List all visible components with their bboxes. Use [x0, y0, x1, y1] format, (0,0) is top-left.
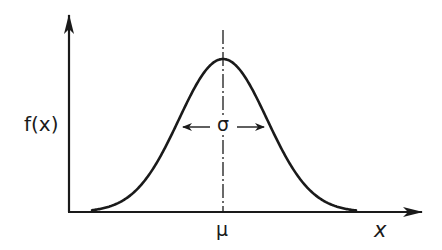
- x-axis-label: x: [374, 220, 386, 241]
- y-axis-label: f(x): [24, 114, 58, 134]
- sigma-label: σ: [215, 115, 231, 134]
- mean-label: μ: [216, 220, 228, 239]
